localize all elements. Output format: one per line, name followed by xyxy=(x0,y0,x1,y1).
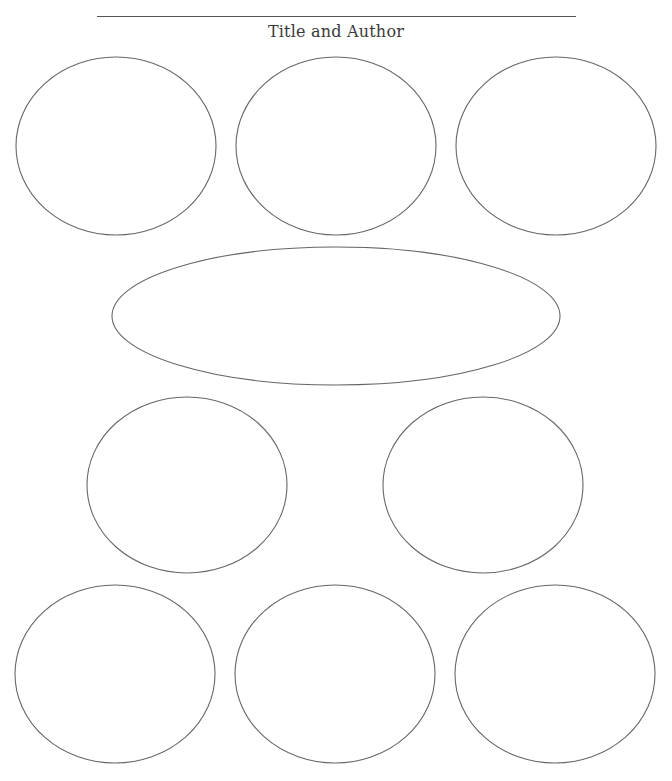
bubble-bottom-right[interactable] xyxy=(455,585,655,763)
bubble-top-right[interactable] xyxy=(456,57,656,235)
bubble-bottom-center[interactable] xyxy=(235,585,435,763)
bubble-middle-right[interactable] xyxy=(383,397,583,573)
worksheet-page: Title and Author xyxy=(0,0,672,781)
bubble-top-left[interactable] xyxy=(16,57,216,235)
bubble-middle-wide[interactable] xyxy=(112,247,560,385)
bubble-middle-left[interactable] xyxy=(87,397,287,573)
bubble-organizer xyxy=(0,0,672,781)
bubble-bottom-left[interactable] xyxy=(15,585,215,763)
bubble-top-center[interactable] xyxy=(236,57,436,235)
